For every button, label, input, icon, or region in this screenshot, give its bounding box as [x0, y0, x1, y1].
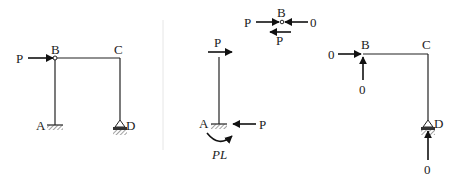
- right-force-label: 0: [310, 15, 317, 30]
- fixed-support-a-icon: [47, 125, 63, 130]
- bottom-force-label: P: [276, 33, 283, 48]
- b-horizontal-label: 0: [328, 47, 335, 62]
- hinge-b-icon: [280, 20, 284, 24]
- node-b-label: B: [277, 5, 286, 20]
- moment-label: PL: [211, 147, 227, 162]
- node-c-label: C: [114, 42, 123, 57]
- bcd-fbd-panel: B C 0 0 D 0: [328, 37, 443, 177]
- node-a-label: A: [199, 116, 209, 131]
- node-a-label: A: [36, 118, 46, 133]
- structural-diagram: P B C A D P A P PL B P 0 P B C: [0, 0, 460, 185]
- fixed-support-a-icon: [211, 124, 227, 129]
- b-vertical-label: 0: [359, 82, 366, 97]
- moment-arrow-icon: [207, 133, 232, 141]
- frame-panel: P B C A D: [16, 42, 135, 135]
- node-d-label: D: [126, 118, 135, 133]
- d-vertical-label: 0: [424, 162, 431, 177]
- node-d-label: D: [434, 116, 443, 131]
- load-p-label: P: [16, 51, 23, 66]
- left-load-label: P: [244, 15, 251, 30]
- hinge-fbd-panel: B P 0 P: [244, 5, 317, 48]
- roller-support-d-icon: [113, 120, 127, 135]
- top-load-label: P: [214, 35, 221, 50]
- base-reaction-label: P: [259, 117, 266, 132]
- column-fbd-panel: P A P PL: [199, 35, 266, 162]
- node-c-label: C: [422, 37, 431, 52]
- node-b-label: B: [51, 42, 60, 57]
- node-b-label: B: [361, 37, 370, 52]
